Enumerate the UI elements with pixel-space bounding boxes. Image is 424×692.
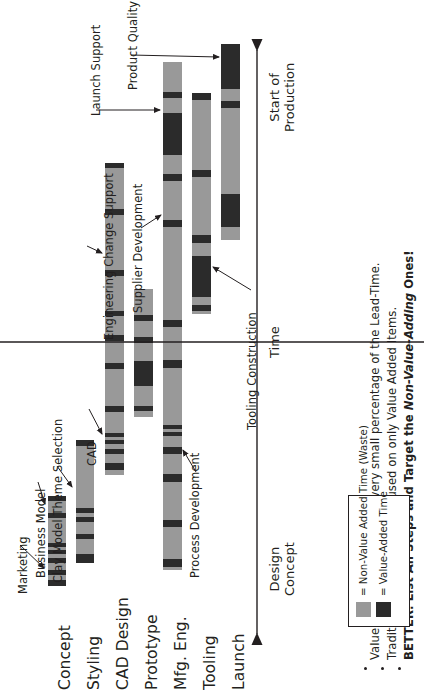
bullet-dot-2 [381,667,384,670]
legend-label-waste: = Non-Value Added Time (Waste) [359,425,370,596]
value-segment [221,194,240,227]
value-segment [163,360,182,368]
bar-tooling [192,93,211,314]
bullet-dot-3 [398,667,401,670]
leader-eng-change [87,246,102,253]
callout-eng-change: Engineering Change Support [104,173,116,340]
chart-canvas: Concept Styling CAD Design Prototype Mfg… [0,0,424,692]
callout-product-quality: Product Quality [128,1,140,90]
value-segment [163,174,182,181]
callout-process-dev: Process Development [190,453,202,578]
row-label-prototype: Prototype [144,614,160,690]
value-segment [163,220,182,227]
value-segment [163,320,182,327]
value-segment [105,440,124,444]
value-segment [163,113,182,155]
bullet-text-3-post: Ones! [402,250,416,293]
value-segment [134,361,153,386]
bullet-text-3-emphasis: Non-Value-Adding [402,293,416,410]
legend-box: = Non-Value Added Time (Waste) = Value-A… [348,495,410,627]
callout-supplier-dev: Supplier Development [133,184,145,313]
value-segment [221,44,240,89]
callout-marketing: Marketing [18,536,30,594]
value-segment [134,315,153,321]
leader-cad [89,409,102,434]
callout-launch-support: Launch Support [91,25,103,116]
value-segment [163,432,182,436]
value-segment [76,554,94,563]
row-label-cad-design: CAD Design [115,597,131,690]
row-label-concept: Concept [57,625,73,690]
value-segment [105,406,124,412]
value-segment [163,474,182,482]
value-segment [163,92,182,98]
callout-business-model: Business Model [36,489,48,578]
value-segment [76,517,94,522]
axis-label-time: Time [267,326,282,358]
value-segment [192,170,211,177]
value-segment [76,508,94,513]
value-segment [192,256,211,297]
axis-label-design-concept: DesignConcept [267,542,298,596]
value-segment [192,305,211,311]
row-label-styling: Styling [86,636,102,690]
callout-cad: CAD [87,441,99,466]
value-segment [221,101,240,108]
value-segment [134,337,153,343]
leader-tooling-const [213,267,251,290]
callout-clay-model: Clay Model Theme Selection [53,419,65,583]
value-segment [163,559,182,567]
value-segment [76,534,94,539]
bar-launch [221,44,240,240]
value-segment [105,433,124,437]
value-segment [105,363,124,369]
row-label-mfg-eng: Mfg. Eng. [173,616,189,690]
callout-tooling-const: Tooling Construction [247,312,259,430]
value-segment [134,406,153,411]
axis-label-start-production: Start ofProduction [267,63,298,132]
value-segment [192,93,211,100]
legend-label-value: = Value-Added Time [379,491,390,596]
value-segment [105,463,124,470]
value-segment [163,520,182,527]
leader-product-quality [131,55,219,57]
row-label-launch: Launch [231,633,247,690]
bar-mfg-eng [163,62,182,570]
value-segment [105,449,124,454]
legend-swatch-value [376,602,391,617]
row-label-tooling: Tooling [202,635,218,690]
value-segment [105,163,124,168]
bullet-dot-1 [364,667,367,670]
value-segment [163,425,182,429]
value-segment [192,235,211,243]
legend-swatch-waste [356,602,371,617]
value-segment [163,447,182,454]
